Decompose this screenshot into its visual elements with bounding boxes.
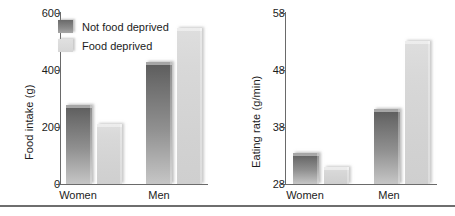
bar-women-food-deprived (97, 124, 122, 184)
legend-swatch-icon-dark (58, 20, 73, 33)
bar-women-not-food-deprived (66, 105, 92, 184)
bottom-divider (0, 205, 455, 207)
bar-men-not-food-deprived (146, 62, 172, 184)
bar-men-not-food-deprived (374, 109, 400, 184)
legend-swatch-icon-light (58, 39, 73, 52)
x-tick-label-women: Women (49, 189, 107, 201)
bar-men-food-deprived (177, 28, 202, 184)
bar-women-food-deprived (324, 167, 349, 184)
legend: Not food deprived Food deprived (58, 17, 169, 55)
y-tick-label: 200 (26, 122, 60, 133)
y-tick-label: 400 (26, 65, 60, 76)
x-tick-label-men: Men (131, 189, 187, 201)
x-tick-label-men: Men (361, 189, 417, 201)
legend-label: Not food deprived (82, 21, 169, 33)
figure: Food intake (g) 0 200 400 600 Women Men (0, 0, 455, 216)
x-tick-label-women: Women (276, 189, 334, 201)
plot-area (285, 12, 437, 184)
legend-item-food-deprived: Food deprived (58, 36, 169, 55)
bar-women-not-food-deprived (293, 153, 319, 184)
legend-label: Food deprived (82, 40, 152, 52)
legend-item-not-food-deprived: Not food deprived (58, 17, 169, 36)
x-axis-line (285, 184, 437, 185)
x-axis-line (60, 184, 208, 185)
chart-panel-eating-rate: Eating rate (g/min) 28 38 48 58 Women Me… (228, 0, 455, 200)
chart-panel-food-intake: Food intake (g) 0 200 400 600 Women Men (0, 0, 228, 200)
bar-men-food-deprived (405, 41, 430, 184)
y-tick-label: 600 (26, 8, 60, 19)
